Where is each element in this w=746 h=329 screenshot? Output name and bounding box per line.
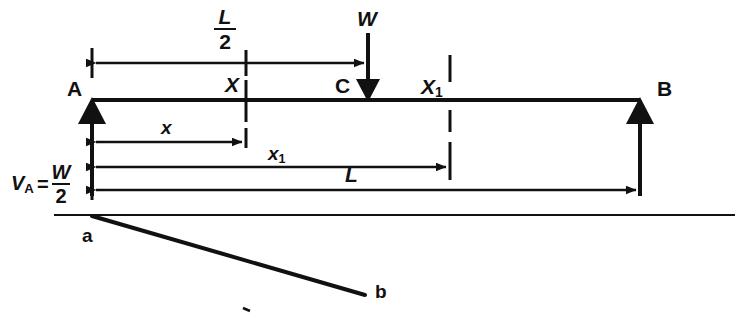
dim-x1-base: x [268, 143, 279, 164]
dimension-label-span: L [345, 164, 358, 185]
beam-diagram: L 2 W A B C X X1 x x1 L VA = W 2 a b [0, 0, 746, 329]
load-point-label-c: C [335, 75, 350, 96]
shear-diagram-line-ab [92, 216, 365, 295]
right-support-reaction-arrow [626, 97, 654, 196]
load-label-w: W [357, 8, 377, 29]
section-x1-base: X [421, 75, 435, 98]
reaction-equals-sign: = [37, 173, 49, 196]
half-span-numerator: L [218, 6, 233, 27]
section-x1-subscript: 1 [435, 84, 443, 100]
reaction-subscript-a: A [24, 181, 34, 196]
reaction-label-left-support: VA = W 2 [11, 162, 70, 206]
applied-load-arrow [356, 33, 380, 102]
reaction-denominator: 2 [55, 186, 66, 206]
shear-point-label-a: a [82, 226, 93, 245]
beam-diagram-canvas [0, 0, 746, 329]
reaction-numerator: W [52, 162, 71, 182]
dimension-label-half-span: L 2 [214, 6, 236, 52]
dimension-label-x1: x1 [268, 144, 286, 165]
reaction-symbol-v: VA [11, 172, 34, 196]
scan-artifact-tick [243, 308, 250, 311]
half-span-denominator: 2 [218, 31, 232, 52]
reaction-fraction: W 2 [52, 162, 71, 206]
support-label-b: B [657, 78, 672, 99]
reaction-v: V [11, 172, 24, 194]
shear-point-label-b: b [375, 282, 387, 301]
section-label-x1: X1 [421, 76, 443, 100]
dim-x1-subscript: 1 [279, 152, 286, 166]
support-label-a: A [67, 78, 82, 99]
section-label-x: X [225, 74, 239, 95]
dimension-label-x: x [161, 118, 172, 137]
